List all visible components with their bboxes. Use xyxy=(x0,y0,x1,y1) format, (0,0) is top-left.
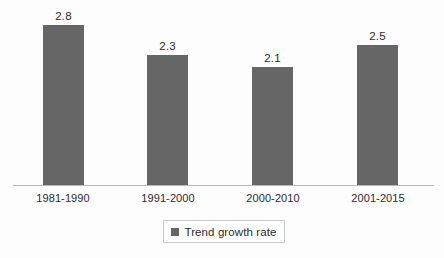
x-axis-tick-label: 2000-2010 xyxy=(246,192,300,204)
x-axis-tick-labels: 1981-1990 1991-2000 2000-2010 2001-2015 xyxy=(0,192,444,210)
bar-value-label: 2.3 xyxy=(159,40,176,52)
bar-group: 2.1 xyxy=(252,67,293,186)
legend-square-marker xyxy=(171,228,179,236)
bar-group: 2.5 xyxy=(357,45,398,186)
x-axis-tick-label: 1981-1990 xyxy=(36,192,90,204)
legend-item-trend-growth-rate[interactable]: Trend growth rate xyxy=(171,226,276,238)
bar-trend-growth-rate[interactable] xyxy=(252,67,293,186)
x-axis-tick-label: 1991-2000 xyxy=(141,192,195,204)
plot-area: 2.8 2.3 2.1 2.5 xyxy=(0,0,444,186)
bar-group: 2.3 xyxy=(147,55,188,186)
x-axis-tick-label: 2001-2015 xyxy=(351,192,405,204)
bar-group: 2.8 xyxy=(43,25,84,186)
bar-chart: 2.8 2.3 2.1 2.5 1981-1990 1991-2000 2000… xyxy=(0,0,444,258)
bar-trend-growth-rate[interactable] xyxy=(43,25,84,186)
bar-trend-growth-rate[interactable] xyxy=(147,55,188,186)
legend-item-label: Trend growth rate xyxy=(184,226,276,238)
bar-trend-growth-rate[interactable] xyxy=(357,45,398,186)
bar-value-label: 2.1 xyxy=(264,52,281,64)
x-axis-line xyxy=(13,185,434,186)
bar-value-label: 2.5 xyxy=(369,30,386,42)
chart-legend: Trend growth rate xyxy=(163,220,285,243)
bar-value-label: 2.8 xyxy=(55,10,72,22)
